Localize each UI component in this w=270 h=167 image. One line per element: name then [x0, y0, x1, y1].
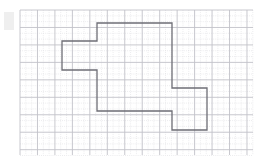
grid-paper-figure [0, 0, 270, 167]
figure-canvas [0, 0, 270, 167]
paper-smudge [4, 12, 14, 30]
